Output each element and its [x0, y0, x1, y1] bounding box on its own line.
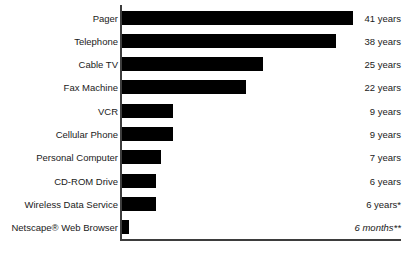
horizontal-bar-chart: Pager41 yearsTelephone38 yearsCable TV25…: [0, 0, 413, 254]
bar-category-label: Telephone: [74, 35, 118, 46]
bar-value-label: 22 years: [340, 82, 401, 93]
bar-value-label: 9 years: [340, 105, 401, 116]
bar-track: [122, 197, 156, 211]
bar-category-label: Netscape® Web Browser: [11, 222, 118, 233]
bar-fill: [122, 150, 161, 164]
bar-value-label: 25 years: [340, 59, 401, 70]
bar-track: [122, 220, 129, 234]
bar-row: VCR9 years: [0, 99, 413, 122]
bar-fill: [122, 57, 263, 71]
bar-fill: [122, 11, 353, 25]
bar-fill: [122, 104, 173, 118]
bar-track: [122, 80, 246, 94]
bar-fill: [122, 220, 129, 234]
bar-category-label: CD-ROM Drive: [54, 175, 118, 186]
bar-value-label: 7 years: [340, 152, 401, 163]
bar-track: [122, 104, 173, 118]
bar-row: CD-ROM Drive6 years: [0, 169, 413, 192]
bar-value-label: 41 years: [340, 12, 401, 23]
bar-category-label: Fax Machine: [64, 82, 118, 93]
bar-track: [122, 57, 263, 71]
bar-fill: [122, 80, 246, 94]
bar-category-label: VCR: [98, 105, 118, 116]
bar-row: Wireless Data Service6 years*: [0, 192, 413, 215]
bar-row: Netscape® Web Browser6 months**: [0, 216, 413, 239]
bar-category-label: Wireless Data Service: [25, 198, 118, 209]
bar-row: Cable TV25 years: [0, 53, 413, 76]
bar-category-label: Pager: [93, 12, 118, 23]
bar-category-label: Cable TV: [79, 59, 118, 70]
bar-track: [122, 174, 156, 188]
bar-track: [122, 11, 353, 25]
bar-row: Pager41 years: [0, 6, 413, 29]
bar-fill: [122, 197, 156, 211]
bar-track: [122, 127, 173, 141]
bar-value-label: 9 years: [340, 129, 401, 140]
bar-track: [122, 34, 336, 48]
bar-value-label: 6 years*: [340, 198, 401, 209]
bar-track: [122, 150, 161, 164]
bar-fill: [122, 174, 156, 188]
bar-fill: [122, 34, 336, 48]
bar-value-label: 6 months**: [340, 222, 401, 233]
bar-row: Fax Machine22 years: [0, 76, 413, 99]
bar-row: Personal Computer7 years: [0, 146, 413, 169]
bar-value-label: 38 years: [340, 35, 401, 46]
x-axis-line: [120, 239, 401, 241]
bar-value-label: 6 years: [340, 175, 401, 186]
bar-fill: [122, 127, 173, 141]
bar-category-label: Personal Computer: [36, 152, 118, 163]
bar-row: Cellular Phone9 years: [0, 123, 413, 146]
bar-row: Telephone38 years: [0, 29, 413, 52]
bar-category-label: Cellular Phone: [56, 129, 118, 140]
